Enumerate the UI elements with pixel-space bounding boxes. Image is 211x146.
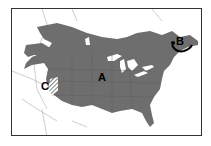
map-canvas <box>12 9 202 136</box>
label-c: C <box>41 81 49 92</box>
label-b: B <box>176 36 184 47</box>
hudson-bay <box>87 9 142 31</box>
range-area-a <box>24 23 198 127</box>
area-b-dot <box>171 41 175 45</box>
map-frame: A B C <box>11 8 202 136</box>
label-a: A <box>98 72 106 83</box>
